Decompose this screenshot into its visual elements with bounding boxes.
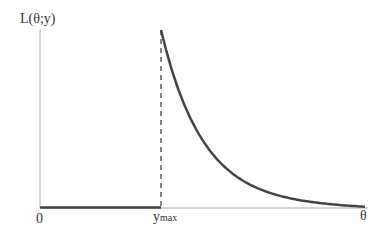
origin-tick-label: 0 [36,211,43,227]
x-axis-label: θ [360,208,367,224]
ymax-subscript: max [160,212,177,223]
likelihood-curve [161,30,365,207]
ymax-main: y [153,209,160,224]
likelihood-plot [0,0,386,241]
ymax-tick-label: ymax [153,209,177,225]
y-axis-label: L(θ;y) [20,11,55,27]
